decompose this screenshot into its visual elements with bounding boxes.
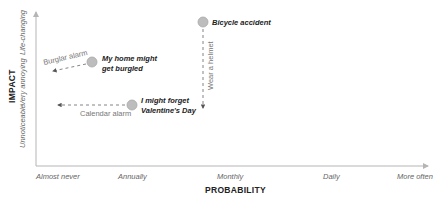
y-tick-life-changing: Life-changing [18, 9, 27, 55]
mitigation-label-burglar-alarm: Burglar alarm [42, 48, 88, 67]
x-tick-more-often: More often [397, 172, 433, 181]
risk-label-valentine-line2: Valentine's Day [141, 106, 197, 115]
risk-matrix-chart: Unnoticeable Very annoying Life-changing… [0, 0, 444, 200]
risk-label-burglary-line1: My home might [102, 54, 158, 63]
mitigation-label-calendar-alarm: Calendar alarm [80, 109, 131, 118]
risk-dot-burglary [87, 57, 97, 67]
risk-label-burglary-line2: get burgled [101, 64, 143, 73]
risk-dot-bicycle [198, 17, 208, 27]
y-axis-title: IMPACT [7, 69, 17, 103]
mitigation-arrow-burglary [53, 64, 86, 71]
y-tick-unnoticeable: Unnoticeable [18, 104, 27, 148]
x-tick-monthly: Monthly [217, 172, 245, 181]
risk-label-bicycle: Bicycle accident [212, 18, 271, 27]
x-tick-annually: Annually [117, 172, 148, 181]
risk-label-valentine-line1: I might forget [141, 96, 189, 105]
x-axis-title: PROBABILITY [205, 185, 266, 195]
mitigation-label-helmet: Wear a helmet [206, 40, 215, 90]
x-tick-daily: Daily [323, 172, 341, 181]
y-tick-very-annoying: Very annoying [18, 58, 27, 106]
x-tick-almost-never: Almost never [35, 172, 80, 181]
